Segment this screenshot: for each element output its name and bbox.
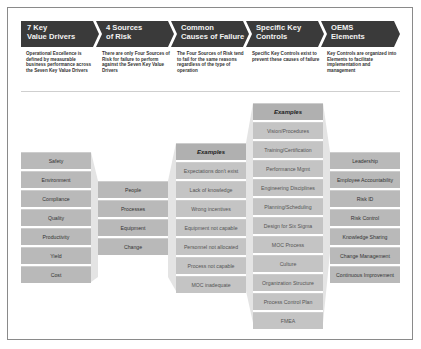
control-cell: Planning/Scheduling (253, 198, 323, 215)
cause-cell: Wrong incentives (176, 200, 246, 217)
value-driver-cell: Cost (21, 266, 91, 283)
cause-cell: Equipment not capable (176, 219, 246, 236)
column-oems-elements: Leadership Employee Accountability Risk … (330, 152, 400, 285)
oems-element-cell: Continuous Improvement (330, 266, 400, 283)
oems-element-cell: Knowledge Sharing (330, 228, 400, 245)
column-key-controls: Examples Vision/Procedures Training/Cert… (253, 103, 323, 331)
column-value-drivers: Safety Environment Compliance Quality Pr… (21, 152, 91, 285)
column-sources-of-risk: People Processes Equipment Change (98, 181, 168, 257)
oems-element-cell: Risk ID (330, 190, 400, 207)
value-driver-cell: Environment (21, 171, 91, 188)
control-cell: MOC Process (253, 236, 323, 253)
control-cell: FMEA (253, 312, 323, 329)
cause-cell: Expectations don't exist (176, 162, 246, 179)
control-cell: Vision/Procedures (253, 122, 323, 139)
value-driver-cell: Productivity (21, 228, 91, 245)
source-of-risk-cell: Equipment (98, 219, 168, 236)
cause-cell: Personnel not allocated (176, 238, 246, 255)
control-cell: Training/Certification (253, 141, 323, 158)
source-of-risk-cell: People (98, 181, 168, 198)
source-of-risk-cell: Change (98, 238, 168, 255)
control-cell: Culture (253, 255, 323, 272)
cause-cell: Process not capable (176, 257, 246, 274)
source-of-risk-cell: Processes (98, 200, 168, 217)
oems-element-cell: Leadership (330, 152, 400, 169)
examples-header: Examples (176, 143, 246, 160)
control-cell: Performance Mgmt (253, 160, 323, 177)
examples-header: Examples (253, 103, 323, 120)
oems-element-cell: Risk Control (330, 209, 400, 226)
value-driver-cell: Quality (21, 209, 91, 226)
value-driver-cell: Yield (21, 247, 91, 264)
control-cell: Engineering Disciplines (253, 179, 323, 196)
value-driver-cell: Compliance (21, 190, 91, 207)
control-cell: Organization Structure (253, 274, 323, 291)
oems-element-cell: Change Management (330, 247, 400, 264)
value-driver-cell: Safety (21, 152, 91, 169)
cause-cell: Lack of knowledge (176, 181, 246, 198)
control-cell: Design for Six Sigma (253, 217, 323, 234)
column-causes-of-failure: Examples Expectations don't exist Lack o… (176, 143, 246, 295)
cause-cell: MOC inadequate (176, 276, 246, 293)
oems-element-cell: Employee Accountability (330, 171, 400, 188)
control-cell: Process Control Plan (253, 293, 323, 310)
